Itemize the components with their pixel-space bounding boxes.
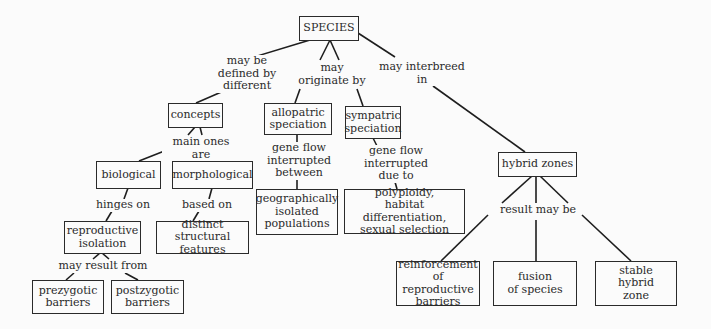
node-biological: biological xyxy=(96,161,161,189)
link-hinges-on: hinges on xyxy=(92,199,154,212)
node-reinforcement-of-reproductive-barriers: reinforcement of reproductive barriers xyxy=(396,261,480,306)
node-stable-hybrid-zone: stable hybrid zone xyxy=(595,261,677,306)
link-main-ones-are: main ones are xyxy=(162,136,240,161)
node-polyploidy-habitat-sexual-selection: polyploidy, habitat differentiation, sex… xyxy=(344,189,465,234)
node-prezygotic-barriers: prezygotic barriers xyxy=(32,280,104,314)
link-based-on: based on xyxy=(178,199,236,212)
node-sympatric-speciation: sympatric speciation xyxy=(345,106,401,139)
link-gene-flow-interrupted-between: gene flow interrupted between xyxy=(264,142,334,180)
node-distinct-structural-features: distinct structural features xyxy=(156,221,249,254)
node-allopatric-speciation: allopatric speciation xyxy=(264,103,332,135)
node-morphological: morphological xyxy=(172,161,253,189)
node-fusion-of-species: fusion of species xyxy=(493,261,577,306)
link-may-be-defined-by-different: may be defined by different xyxy=(208,55,286,93)
node-geographically-isolated-populations: geographically isolated populations xyxy=(256,189,338,235)
link-may-interbreed-in: may interbreed in xyxy=(373,61,471,86)
link-gene-flow-interrupted-due-to: gene flow interrupted due to xyxy=(360,145,432,183)
node-hybrid-zones: hybrid zones xyxy=(498,152,577,177)
link-result-may-be: result may be xyxy=(498,204,578,217)
link-may-result-from: may result from xyxy=(50,260,156,273)
node-species: SPECIES xyxy=(299,16,359,41)
link-may-originate-by: may originate by xyxy=(289,62,375,87)
node-reproductive-isolation: reproductive isolation xyxy=(64,221,141,254)
node-concepts: concepts xyxy=(168,103,223,128)
node-postzygotic-barriers: postzygotic barriers xyxy=(111,280,184,314)
species-concept-map: SPECIES concepts allopatric speciation s… xyxy=(0,0,711,329)
